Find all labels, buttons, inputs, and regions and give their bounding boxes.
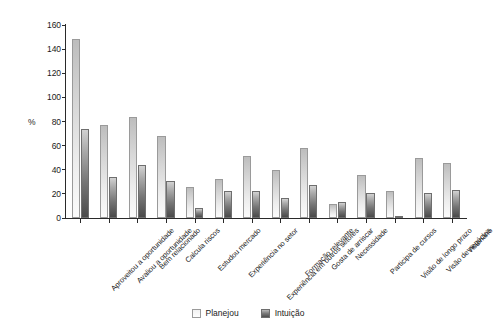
legend-item-planejou: Planejou [192,308,239,318]
x-tick-mark [337,219,338,223]
y-tick-label: 100 [47,92,66,102]
bar-intuio-10 [366,193,374,218]
bar-planejou-11 [386,191,394,218]
x-tick-mark [423,219,424,223]
bar-planejou-10 [357,175,365,218]
x-tick-mark [366,219,367,223]
bar-chart: % 020406080100120140160 Aproveitou a opo… [0,0,496,335]
x-tick-mark [252,219,253,223]
x-tick-mark [280,219,281,223]
y-tick-label: 160 [47,20,66,30]
bar-planejou-6 [243,156,251,218]
bar-intuio-3 [166,181,174,218]
x-tick-mark [137,219,138,223]
x-tick-mark [309,219,310,223]
y-tick-label: 60 [52,141,66,151]
y-tick-label: 80 [52,117,66,127]
bar-intuio-7 [281,198,289,219]
bar-intuio-2 [138,165,146,218]
y-tick-label: 40 [52,165,66,175]
bar-planejou-12 [415,158,423,218]
bar-planejou-4 [186,187,194,218]
y-tick-label: 140 [47,44,66,54]
x-tick-mark [395,219,396,223]
bar-intuio-8 [309,185,317,218]
bar-intuio-5 [224,191,232,218]
legend-label: Planejou [206,308,239,318]
bar-planejou-0 [72,39,80,218]
x-tick-mark [166,219,167,223]
bar-intuio-6 [252,191,260,218]
x-tick-mark [452,219,453,223]
bar-planejou-8 [300,148,308,218]
bar-intuio-4 [195,208,203,218]
bar-intuio-12 [424,193,432,218]
legend-label: Intuição [275,308,305,318]
bar-intuio-0 [81,129,89,218]
x-tick-mark [80,219,81,223]
bar-planejou-3 [157,136,165,218]
y-tick-label: 20 [52,189,66,199]
bar-intuio-11 [395,216,403,218]
bar-planejou-2 [129,117,137,218]
legend-swatch-icon [192,309,201,318]
x-axis-line [65,218,467,219]
bar-planejou-1 [100,125,108,218]
y-axis-title: % [28,117,36,127]
y-tick-label: 120 [47,68,66,78]
x-tick-mark [109,219,110,223]
bar-planejou-13 [443,163,451,218]
x-tick-mark [223,219,224,223]
bar-intuio-9 [338,202,346,218]
legend-swatch-icon [261,309,270,318]
chart-legend: PlanejouIntuição [0,308,496,318]
plot-area [66,25,466,218]
bar-intuio-13 [452,190,460,218]
bar-planejou-5 [215,179,223,218]
bar-planejou-9 [329,204,337,218]
legend-item-intuio: Intuição [261,308,305,318]
x-tick-mark [195,219,196,223]
bar-intuio-1 [109,177,117,218]
y-tick-label: 0 [56,213,66,223]
bar-planejou-7 [272,170,280,218]
